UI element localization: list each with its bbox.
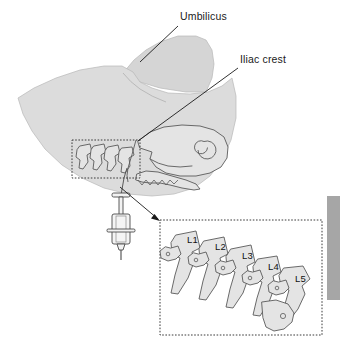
- iliac-crest-label: Iliac crest: [240, 53, 286, 65]
- syringe-needle-hub: [117, 244, 125, 250]
- page-edge-tab: [327, 196, 340, 300]
- syringe-plunger-rod: [119, 197, 123, 215]
- vertebra-label-L4: L4: [268, 261, 279, 272]
- vertebra-label-L2: L2: [215, 241, 226, 252]
- illustration-canvas: L1 L2 L3 L4 L5 Umbilicus Iliac crest: [0, 0, 340, 346]
- vertebra-label-L1: L1: [187, 234, 198, 245]
- medical-illustration-figure: L1 L2 L3 L4 L5 Umbilicus Iliac crest: [0, 0, 340, 346]
- inset-vertebrae-group: [160, 231, 310, 331]
- umbilicus-label: Umbilicus: [180, 10, 227, 22]
- vertebra-label-L5: L5: [295, 273, 306, 284]
- vertebra-label-L3: L3: [242, 250, 253, 261]
- syringe: [107, 193, 135, 260]
- syringe-finger-flange: [107, 229, 135, 232]
